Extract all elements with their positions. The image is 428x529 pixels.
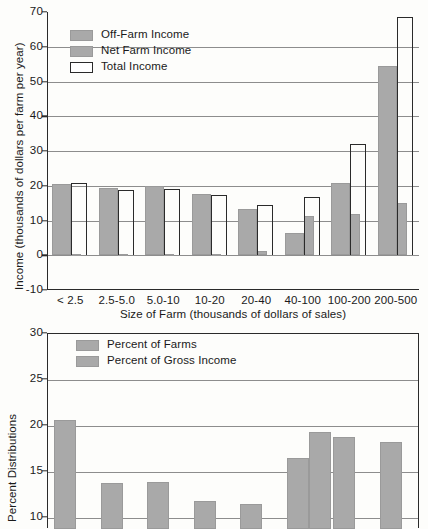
bar-percent-of-farms xyxy=(333,437,355,529)
gridline xyxy=(48,255,419,256)
bar-off-farm-income xyxy=(99,188,118,255)
y-axis-tick-label: 10 xyxy=(30,215,43,227)
x-axis-tick-label: 5.0-10 xyxy=(147,295,180,307)
bar-percent-of-farms xyxy=(380,442,402,529)
gridline xyxy=(48,426,418,427)
bar-total-income xyxy=(257,205,273,255)
y-axis-tick-label: 70 xyxy=(30,6,43,18)
bar-percent-of-farms xyxy=(194,501,216,529)
y-axis-tick-label: 60 xyxy=(30,41,43,53)
y-axis-tick-label: 30 xyxy=(30,145,43,157)
gridline xyxy=(48,116,419,117)
x-axis-tick-label: < 2.5 xyxy=(57,295,83,307)
bar-total-income xyxy=(71,183,87,255)
bar-total-income xyxy=(211,195,227,255)
legend-swatch xyxy=(70,62,93,73)
y-axis-tick-label: 10 xyxy=(30,511,43,523)
legend-swatch xyxy=(76,340,99,351)
bar-total-income xyxy=(350,144,366,255)
x-axis-tick-label: 100-200 xyxy=(328,295,371,307)
legend-item: Off-Farm Income xyxy=(70,28,191,42)
legend-swatch xyxy=(70,46,93,57)
bar-off-farm-income xyxy=(238,209,257,255)
bar-percent-of-farms xyxy=(101,483,123,529)
y-axis-tick-label: 20 xyxy=(30,419,43,431)
y-axis-tick-label: 40 xyxy=(30,111,43,123)
x-axis-tick-label: 20-40 xyxy=(241,295,271,307)
bar-percent-of-gross-income xyxy=(309,432,331,529)
x-axis-tick-label: 40-100 xyxy=(285,295,321,307)
top-chart-x-axis-label: Size of Farm (thousands of dollars of sa… xyxy=(47,308,419,320)
bar-total-income xyxy=(164,189,180,255)
bar-off-farm-income xyxy=(192,194,211,255)
legend-item: Total Income xyxy=(70,60,191,74)
legend-label: Net Farm Income xyxy=(101,45,191,57)
chart-legend: Percent of FarmsPercent of Gross Income xyxy=(76,338,237,370)
bar-percent-of-farms xyxy=(240,504,262,529)
chart-legend: Off-Farm IncomeNet Farm IncomeTotal Inco… xyxy=(70,28,191,76)
y-axis-tick-label: -10 xyxy=(26,284,43,296)
legend-item: Percent of Gross Income xyxy=(76,354,237,368)
legend-item: Percent of Farms xyxy=(76,338,237,352)
bar-percent-of-farms xyxy=(147,482,169,529)
gridline xyxy=(48,472,418,473)
top-chart-y-axis-label: Income (thousands of dollars per farm pe… xyxy=(13,42,25,290)
bar-total-income xyxy=(304,197,320,256)
x-axis-tick-label: 2.5-5.0 xyxy=(98,295,135,307)
bar-percent-of-farms xyxy=(287,458,309,529)
legend-swatch xyxy=(70,30,93,41)
bar-total-income xyxy=(397,17,413,255)
y-axis-tick-label: 25 xyxy=(30,373,43,385)
bar-percent-of-farms xyxy=(54,420,76,529)
gridline xyxy=(48,82,419,83)
y-axis-tick-label: 0 xyxy=(36,250,43,262)
bar-total-income xyxy=(118,190,134,256)
y-axis-tick-label: 30 xyxy=(30,327,43,339)
gridline xyxy=(48,380,418,381)
legend-label: Percent of Gross Income xyxy=(107,355,237,367)
x-axis-tick-label: 200-500 xyxy=(374,295,417,307)
legend-label: Total Income xyxy=(101,61,167,73)
y-axis-tick-label: 15 xyxy=(30,465,43,477)
bar-off-farm-income xyxy=(52,184,71,256)
bar-off-farm-income xyxy=(145,186,164,255)
y-axis-tick-label: 20 xyxy=(30,180,43,192)
y-axis-tick-label: 50 xyxy=(30,76,43,88)
bottom-chart-y-axis-label: Percent Distributions xyxy=(6,414,18,522)
legend-swatch xyxy=(76,356,99,367)
legend-label: Off-Farm Income xyxy=(101,29,189,41)
legend-label: Percent of Farms xyxy=(107,339,197,351)
bar-off-farm-income xyxy=(331,183,350,255)
x-axis-tick-label: 10-20 xyxy=(195,295,225,307)
bar-off-farm-income xyxy=(378,66,397,256)
legend-item: Net Farm Income xyxy=(70,44,191,58)
bar-off-farm-income xyxy=(285,233,304,255)
